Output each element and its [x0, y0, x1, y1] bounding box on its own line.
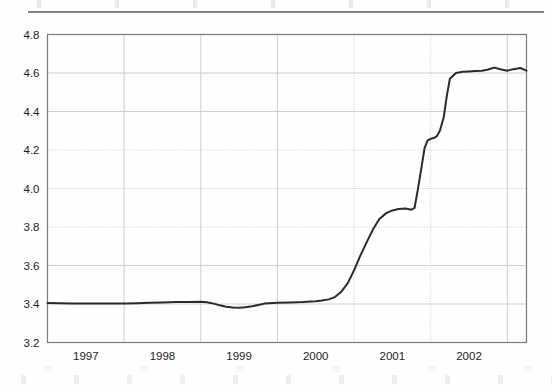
y-axis-tick-labels: 4.84.64.44.24.03.83.63.43.2 [24, 29, 41, 349]
chart-svg: 4.84.64.44.24.03.83.63.43.2 199719981999… [0, 0, 552, 390]
plot-frame [48, 35, 527, 343]
figure-page: 4.84.64.44.24.03.83.63.43.2 199719981999… [0, 0, 552, 390]
y-tick-label: 4.6 [24, 67, 40, 79]
y-tick-label: 3.8 [24, 221, 40, 233]
data-line-1 [48, 68, 527, 308]
x-tick-label: 1999 [226, 350, 252, 362]
y-gridlines [48, 73, 527, 304]
y-tick-label: 4.8 [24, 29, 40, 41]
x-tick-label: 1997 [73, 350, 99, 362]
y-tick-label: 4.0 [24, 183, 40, 195]
x-axis-tick-labels: 199719981999200020012002 [73, 350, 482, 362]
y-tick-label: 4.2 [24, 144, 40, 156]
y-tick-label: 3.2 [24, 337, 40, 349]
series-group [48, 68, 527, 308]
y-tick-label: 3.6 [24, 260, 40, 272]
x-tick-label: 2000 [303, 350, 329, 362]
y-tick-label: 3.4 [24, 298, 41, 310]
y-tick-label: 4.4 [24, 106, 41, 118]
line-chart: 4.84.64.44.24.03.83.63.43.2 199719981999… [0, 0, 552, 390]
x-tick-label: 1998 [150, 350, 176, 362]
x-tick-label: 2002 [456, 350, 482, 362]
x-tick-label: 2001 [380, 350, 406, 362]
